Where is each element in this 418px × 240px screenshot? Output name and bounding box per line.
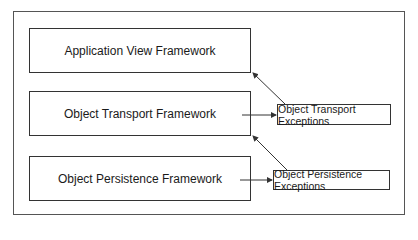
object-persistence-exceptions-label: Object Persistence Exceptions <box>274 168 389 192</box>
object-persistence-framework-box: Object Persistence Framework <box>29 156 251 201</box>
object-transport-exceptions-box: Object Transport Exceptions <box>277 104 391 125</box>
object-persistence-exceptions-box: Object Persistence Exceptions <box>273 170 390 190</box>
object-transport-exceptions-label: Object Transport Exceptions <box>278 103 390 127</box>
application-view-framework-label: Application View Framework <box>64 44 215 58</box>
application-view-framework-box: Application View Framework <box>29 28 251 73</box>
object-transport-framework-box: Object Transport Framework <box>29 91 251 136</box>
object-transport-framework-label: Object Transport Framework <box>64 107 216 121</box>
object-persistence-framework-label: Object Persistence Framework <box>58 172 222 186</box>
